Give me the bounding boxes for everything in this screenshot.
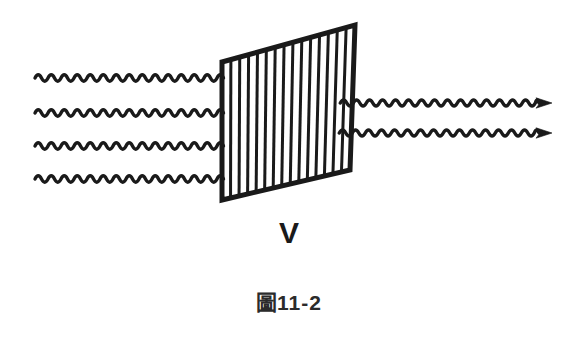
grating-bar-3	[248, 55, 249, 194]
figure-caption: 圖11-2	[0, 292, 578, 314]
grating-bar-7	[282, 45, 284, 186]
figure-page: V 圖11-2	[0, 0, 578, 344]
grating-bar-8	[290, 42, 293, 184]
grating-bar-12	[324, 32, 328, 176]
grating-bar-6	[273, 47, 275, 188]
grating-bar-11	[316, 35, 320, 178]
incident-wave-ray-3	[35, 143, 224, 149]
figure-caption-number: 11-2	[277, 291, 322, 314]
transmitted-wave-group	[339, 98, 552, 138]
grating-bar-10	[307, 37, 310, 180]
grating-bar-5	[265, 50, 267, 190]
incident-wave-ray-2	[35, 110, 224, 116]
grating-bar-2	[239, 57, 240, 196]
grating-bar-13	[333, 30, 337, 174]
grating-bar-4	[256, 52, 257, 192]
incident-wave-group	[35, 75, 224, 182]
polarizer-orientation-label: V	[0, 218, 578, 248]
transmitted-wave-ray-2	[339, 130, 539, 136]
figure-caption-cjk: 圖	[256, 291, 277, 315]
grating-bar-9	[299, 40, 302, 182]
transmitted-wave-ray-1	[340, 100, 539, 106]
incident-wave-ray-1	[35, 75, 224, 81]
incident-wave-ray-4	[35, 176, 224, 182]
polarizer-grating-group	[222, 25, 355, 200]
